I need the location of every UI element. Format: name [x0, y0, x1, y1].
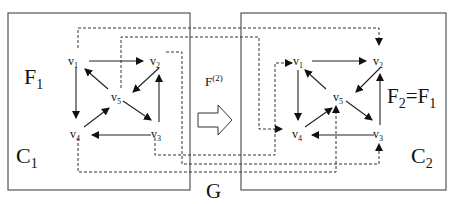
diagram-canvas: [0, 0, 454, 204]
category-c1-label: C1: [16, 145, 38, 171]
edge-v4-v5: [84, 108, 109, 127]
vertex-v4: v4: [70, 128, 80, 143]
functor-f2-label: F2=F1: [387, 86, 436, 111]
vertex-v2-prime: v2: [373, 55, 383, 70]
vertex-v3-prime: v3: [373, 128, 383, 143]
graph-g-label: G: [206, 181, 221, 202]
vertex-v5: v5: [111, 91, 121, 106]
mapping-v3-to-v1prime: [155, 63, 292, 155]
edge-v5-v3: [123, 101, 151, 120]
edge-v5-v1: [85, 69, 108, 89]
edge-v5p-v1p: [305, 70, 326, 89]
edge-v2p-v5p: [356, 68, 380, 92]
category-c2-label: C2: [411, 145, 433, 171]
vertex-v2: v2: [150, 55, 160, 70]
vertex-v3: v3: [151, 128, 161, 143]
map-f2-label: F(2): [205, 74, 223, 88]
mapping-v1-to-v2prime: [78, 28, 379, 48]
edge-v2-v5: [133, 68, 159, 92]
vertex-v1-prime: v1: [293, 55, 303, 70]
vertex-v5-prime: v5: [333, 91, 343, 106]
vertex-v1: v1: [68, 55, 78, 70]
functor-f1-label: F1: [24, 66, 43, 92]
edge-v5p-v3p: [346, 101, 372, 120]
edge-v4p-v5p: [305, 108, 332, 127]
vertex-v4-prime: v4: [292, 128, 302, 143]
mapping-v2-to-v3prime: [166, 52, 379, 164]
functor-arrow-icon: [198, 105, 232, 135]
